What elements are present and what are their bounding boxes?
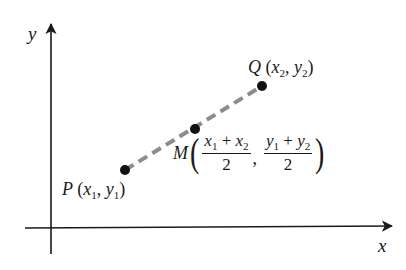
- p-x: x: [83, 179, 91, 199]
- x1: x: [204, 131, 212, 150]
- x-axis-label: x: [378, 236, 386, 255]
- y2: y: [297, 131, 305, 150]
- m-y-numerator: y1 + y2: [264, 132, 312, 154]
- x-axis: [25, 226, 392, 228]
- point-p: [120, 165, 130, 175]
- x2-sub: 2: [243, 140, 249, 152]
- m-open-paren: (: [190, 133, 199, 173]
- m-x-fraction: x1 + x2 2: [202, 132, 250, 173]
- q-y: y: [294, 57, 302, 77]
- p-comma: ,: [97, 179, 102, 199]
- m-y-fraction: y1 + y2 2: [264, 132, 312, 173]
- q-x: x: [272, 57, 280, 77]
- m-comma: ,: [253, 149, 258, 167]
- m-close-paren: ): [315, 133, 324, 173]
- point-q: [257, 81, 267, 91]
- m-x-denominator: 2: [222, 154, 231, 173]
- y2-sub: 2: [305, 140, 311, 152]
- y-axis-label: y: [28, 24, 36, 43]
- q-close-paren: ): [308, 57, 314, 77]
- x2: x: [235, 131, 243, 150]
- m-y-denominator: 2: [284, 154, 293, 173]
- p-letter: P: [62, 179, 73, 199]
- m-x-numerator: x1 + x2: [202, 132, 250, 154]
- q-comma: ,: [285, 57, 290, 77]
- midpoint-diagram: y x Q (x2, y2) P (x1, y1) M ( x1 + x2 2 …: [0, 0, 406, 270]
- point-p-label: P (x1, y1): [62, 180, 125, 201]
- point-q-label: Q (x2, y2): [248, 58, 314, 79]
- p-close-paren: ): [119, 179, 125, 199]
- point-m-label: M ( x1 + x2 2 , y1 + y2 2 ): [173, 132, 327, 173]
- plus-op: +: [279, 131, 297, 150]
- q-letter: Q: [248, 57, 261, 77]
- y1: y: [266, 131, 274, 150]
- m-letter: M: [173, 144, 188, 162]
- plus-op: +: [217, 131, 235, 150]
- p-y: y: [106, 179, 114, 199]
